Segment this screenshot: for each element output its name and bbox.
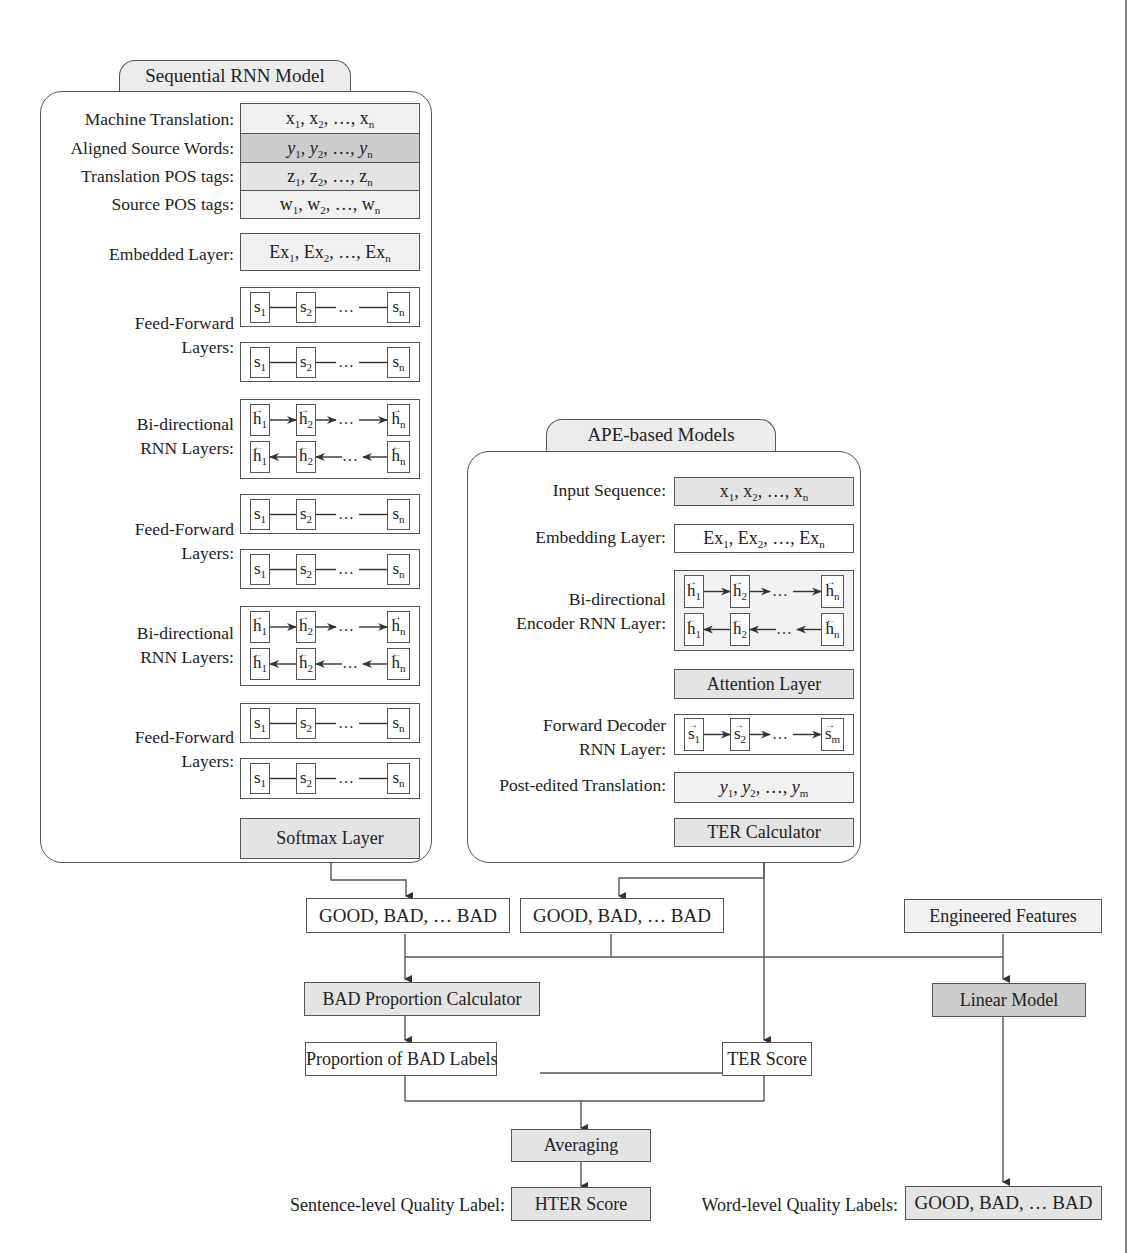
layer-cell: h1 [684,613,704,646]
layer-cell: s2 [296,499,316,530]
layer-cell: h2 [730,575,750,608]
rnn-model-title-tab: Sequential RNN Model [119,60,351,93]
engineered-features: Engineered Features [904,899,1102,933]
layer-cell: sm [821,718,844,751]
translation-pos-tags-label: Translation POS tags: [20,165,234,187]
layer-cell: sn [387,554,410,585]
layer-cell: s1 [250,499,270,530]
rnn-labels-output: GOOD, BAD, … BAD [306,898,510,933]
layer-cell: s2 [730,718,750,751]
ape-model-title-tab: APE-based Models [546,419,776,452]
embedded-layer-label: Embedded Layer: [20,243,234,265]
layer-cell: s1 [250,763,270,794]
embedded-layer-box: Ex1, Ex2, …, Exn [240,233,420,271]
layer-cell: hn [387,441,410,473]
layer-cell: hn [387,404,410,436]
hter-score: HTER Score [511,1187,651,1221]
layer-cell: s1 [250,347,270,378]
bad-proportion-calculator: BAD Proportion Calculator [304,982,540,1016]
layer-cell: s2 [296,554,316,585]
source-pos-tags-label: Source POS tags: [20,193,234,215]
averaging: Averaging [511,1129,651,1162]
layer-cell: sn [387,347,410,378]
source-pos-tags-input: w1, w2, …, wn [240,190,420,219]
layer-cell: h2 [296,441,316,473]
ff-layers-label-1: Feed-ForwardLayers: [20,311,234,359]
sentence-level-quality-label: Sentence-level Quality Label: [200,1194,505,1216]
layer-cell: h2 [296,404,316,436]
aligned-source-words-label: Aligned Source Words: [20,137,234,159]
encoder-rnn-label: Bi-directionalEncoder RNN Layer: [440,587,666,635]
layer-cell: h2 [296,648,316,680]
layer-cell: s1 [684,718,704,751]
post-edited-translation-label: Post-edited Translation: [440,774,666,796]
layer-cell: s1 [250,554,270,585]
layer-cell: h1 [250,648,270,680]
layer-cell: s1 [250,292,270,323]
layer-cell: sn [387,708,410,739]
layer-cell: h1 [684,575,704,608]
aligned-source-words-input: y1, y2, …, yn [240,133,420,163]
birnn-layers-label-1: Bi-directionalRNN Layers: [20,412,234,460]
ff-layers-label-3: Feed-ForwardLayers: [20,725,234,773]
ape-labels-output: GOOD, BAD, … BAD [520,898,724,933]
linear-model: Linear Model [932,983,1086,1017]
proportion-of-bad-labels: Proportion of BAD Labels [305,1042,497,1076]
word-level-quality-labels-label: Word-level Quality Labels: [660,1194,898,1216]
layer-cell: sn [387,292,410,323]
layer-cell: sn [387,499,410,530]
embedding-layer-label: Embedding Layer: [440,526,666,548]
birnn-layers-label-2: Bi-directionalRNN Layers: [20,621,234,669]
input-sequence-box: x1, x2, …, xn [674,477,854,506]
post-edited-translation-box: y1, y2, …, ym [674,772,854,803]
translation-pos-tags-input: z1, z2, …, zn [240,162,420,191]
layer-cell: hn [821,575,844,608]
ter-score: TER Score [722,1042,812,1076]
layer-cell: h1 [250,404,270,436]
layer-cell: s2 [296,708,316,739]
layer-cell: h1 [250,441,270,473]
layer-cell: hn [821,613,844,646]
ter-calculator: TER Calculator [674,818,854,847]
input-sequence-label: Input Sequence: [440,479,666,501]
softmax-layer: Softmax Layer [240,818,420,859]
machine-translation-label: Machine Translation: [20,108,234,130]
decoder-rnn-label: Forward DecoderRNN Layer: [440,713,666,761]
machine-translation-input: x1, x2, …, xn [240,103,420,134]
layer-cell: h1 [250,611,270,643]
layer-cell: hn [387,648,410,680]
layer-cell: s2 [296,763,316,794]
ff-layers-label-2: Feed-ForwardLayers: [20,517,234,565]
layer-cell: hn [387,611,410,643]
word-level-output: GOOD, BAD, … BAD [905,1186,1102,1220]
layer-cell: h2 [296,611,316,643]
layer-cell: s1 [250,708,270,739]
embedding-layer-box: Ex1, Ex2, …, Exn [674,524,854,553]
layer-cell: s2 [296,292,316,323]
attention-layer: Attention Layer [674,669,854,699]
layer-cell: h2 [730,613,750,646]
layer-cell: s2 [296,347,316,378]
layer-cell: sn [387,763,410,794]
